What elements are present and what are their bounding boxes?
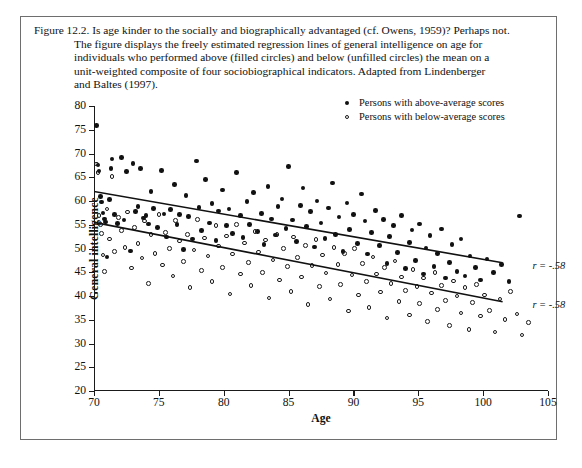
x-axis-title: Age bbox=[94, 412, 548, 425]
y-axis-tick-label: 45 bbox=[74, 266, 86, 278]
x-axis-tick-label: 85 bbox=[283, 397, 295, 409]
x-axis-tick-label: 95 bbox=[412, 397, 424, 409]
caption-line: and Baltes (1997). bbox=[34, 78, 546, 92]
x-axis-tick-label: 80 bbox=[218, 397, 230, 409]
y-axis-tick-label: 20 bbox=[74, 385, 86, 397]
regression-lines-layer: r = -.58r = -.58 bbox=[94, 106, 548, 391]
regression-correlation-label: r = -.58 bbox=[532, 260, 565, 271]
x-axis-title-text: Age bbox=[311, 412, 330, 425]
filled-circle-icon bbox=[340, 101, 354, 106]
x-axis-tick-label: 75 bbox=[153, 397, 165, 409]
x-axis-tick-label: 90 bbox=[348, 397, 360, 409]
plot-area: 20253035404550556065707580 7075808590951… bbox=[94, 106, 548, 391]
y-axis-tick-label: 50 bbox=[74, 243, 86, 255]
x-axis-tick-label: 70 bbox=[88, 397, 100, 409]
x-axis-tick-label: 105 bbox=[539, 397, 556, 409]
figure-frame: Figure 12.2. Is age kinder to the social… bbox=[20, 16, 557, 440]
figure-caption: Figure 12.2. Is age kinder to the social… bbox=[34, 24, 546, 92]
regression-lines bbox=[94, 106, 548, 391]
regression-line bbox=[94, 192, 503, 263]
x-axis-tick-label: 100 bbox=[474, 397, 491, 409]
y-axis-tick-label: 70 bbox=[74, 148, 86, 160]
y-axis-tick-label: 40 bbox=[74, 290, 86, 302]
caption-line: individuals who performed above (filled … bbox=[34, 51, 546, 65]
y-axis-tick-label: 80 bbox=[74, 100, 86, 112]
regression-correlation-label: r = -.58 bbox=[532, 299, 565, 310]
regression-line bbox=[94, 222, 503, 301]
y-axis-tick-label: 35 bbox=[74, 314, 86, 326]
y-axis-tick-label: 60 bbox=[74, 195, 86, 207]
y-axis-tick-label: 65 bbox=[74, 171, 86, 183]
caption-line: The figure displays the freely estimated… bbox=[34, 38, 546, 52]
y-axis-tick-label: 55 bbox=[74, 219, 86, 231]
caption-line: Figure 12.2. Is age kinder to the social… bbox=[34, 24, 546, 38]
caption-line: unit-weighted composite of four sociobio… bbox=[34, 65, 546, 79]
y-axis-tick-label: 25 bbox=[74, 361, 86, 373]
y-axis-tick-label: 75 bbox=[74, 124, 86, 136]
y-axis-tick-label: 30 bbox=[74, 338, 86, 350]
